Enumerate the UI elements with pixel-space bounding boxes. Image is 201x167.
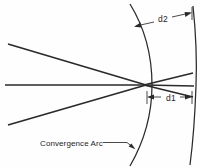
left-ray-group xyxy=(5,44,146,125)
dimension-d2-arrow-right xyxy=(185,12,192,17)
convergence-arc-label: Convergence Arc xyxy=(40,139,103,148)
convergence-arc-diagram: d2 d1 Convergence Arc xyxy=(0,0,201,167)
dimension-d2-label: d2 xyxy=(158,14,168,24)
diagram-canvas: d2 d1 Convergence Arc xyxy=(0,0,201,167)
dimension-d1-group: d1 xyxy=(147,91,192,104)
convergence-arc-leader-group xyxy=(103,143,135,150)
dimension-d1-arrow-left xyxy=(147,95,154,100)
dimension-d1-label: d1 xyxy=(166,93,176,103)
dimension-d2-arrow-left xyxy=(134,23,141,28)
dimension-d2-group: d2 xyxy=(134,7,192,28)
lower-left-ray xyxy=(8,85,146,125)
upper-left-ray xyxy=(8,44,146,85)
